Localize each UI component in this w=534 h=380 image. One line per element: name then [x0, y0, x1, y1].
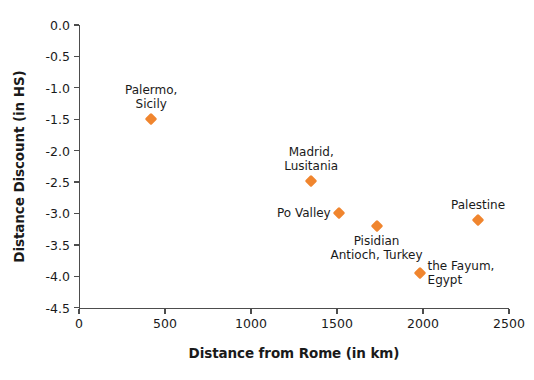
- y-tick-label: -1.0: [46, 80, 70, 95]
- x-tick-mark: [336, 309, 337, 314]
- y-axis-line: [79, 25, 80, 309]
- y-tick-mark: [74, 244, 79, 245]
- data-point-label: the Fayum, Egypt: [428, 259, 495, 287]
- y-tick-label: -0.5: [46, 49, 70, 64]
- y-tick-mark: [74, 181, 79, 182]
- y-tick-label: 0.0: [50, 18, 70, 33]
- y-tick-mark: [74, 276, 79, 277]
- data-point-label: Po Valley: [277, 206, 331, 220]
- data-point-marker[interactable]: [472, 213, 485, 226]
- data-point-marker[interactable]: [413, 267, 426, 280]
- x-tick-label: 1000: [235, 316, 267, 331]
- y-tick-mark: [74, 213, 79, 214]
- x-tick-mark: [164, 309, 165, 314]
- y-tick-mark: [74, 150, 79, 151]
- data-point-label: Palestine: [451, 198, 505, 212]
- y-tick-label: -2.5: [46, 175, 70, 190]
- x-tick-label: 500: [153, 316, 177, 331]
- data-point-marker[interactable]: [370, 220, 383, 233]
- data-point-marker[interactable]: [145, 113, 158, 126]
- x-tick-mark: [422, 309, 423, 314]
- x-tick-label: 2500: [493, 316, 525, 331]
- x-tick-mark: [508, 309, 509, 314]
- y-tick-label: -2.0: [46, 143, 70, 158]
- x-tick-label: 1500: [321, 316, 353, 331]
- y-tick-label: -4.0: [46, 269, 70, 284]
- x-tick-label: 2000: [407, 316, 439, 331]
- data-point-marker[interactable]: [332, 207, 345, 220]
- y-tick-mark: [74, 87, 79, 88]
- y-tick-label: -4.5: [46, 300, 70, 315]
- x-tick-label: 0: [75, 316, 83, 331]
- y-axis-title: Distance Discount (in HS): [8, 25, 30, 308]
- x-axis-title: Distance from Rome (in km): [79, 345, 509, 361]
- data-point-marker[interactable]: [305, 174, 318, 187]
- x-tick-mark: [78, 309, 79, 314]
- y-tick-mark: [74, 24, 79, 25]
- data-point-label: Madrid, Lusitania: [284, 145, 338, 173]
- x-axis-line: [79, 308, 509, 309]
- y-tick-label: -1.5: [46, 112, 70, 127]
- y-tick-mark: [74, 119, 79, 120]
- y-tick-label: -3.5: [46, 237, 70, 252]
- data-point-label: Palermo, Sicily: [125, 83, 177, 111]
- y-tick-mark: [74, 56, 79, 57]
- data-point-label: Pisidian Antioch, Turkey: [331, 234, 423, 262]
- scatter-chart-figure: Distance Discount (in HS) Distance from …: [0, 0, 534, 380]
- x-tick-mark: [250, 309, 251, 314]
- y-tick-label: -3.0: [46, 206, 70, 221]
